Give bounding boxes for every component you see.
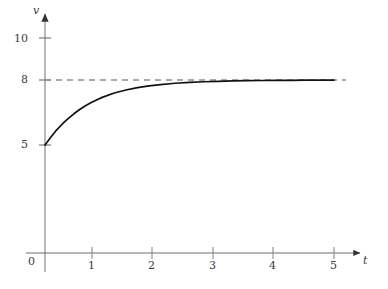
x-tick-label-1: 1: [88, 260, 95, 271]
x-tick-label-3: 3: [209, 260, 216, 271]
x-tick-label-2: 2: [148, 260, 155, 271]
y-axis-label: v: [33, 5, 39, 16]
data-curve-line: [45, 80, 334, 145]
x-tick-label-0: 0: [28, 256, 35, 267]
x-axis-label: t: [363, 255, 367, 266]
y-tick-label-5: 5: [21, 139, 28, 150]
x-tick-label-5: 5: [330, 260, 337, 271]
y-tick-label-8: 8: [21, 74, 28, 85]
y-tick-label-10: 10: [14, 33, 28, 44]
chart-figure: 10 8 5 0 1 2 3 4 5 v t: [0, 0, 388, 289]
x-tick-label-4: 4: [269, 260, 276, 271]
plot-area: [0, 0, 388, 289]
